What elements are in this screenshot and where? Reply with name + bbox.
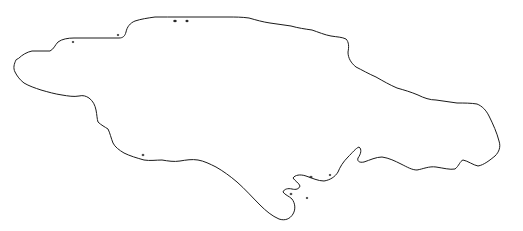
jamaica-outline-map: Jamaica Blank outline map of the island … xyxy=(0,0,523,231)
islet-2 xyxy=(173,20,176,22)
islet-3 xyxy=(186,20,189,22)
islet-8 xyxy=(72,41,74,42)
islet-7 xyxy=(290,193,292,195)
islet-9 xyxy=(117,34,119,35)
map-canvas: Jamaica Blank outline map of the island … xyxy=(0,0,523,231)
islet-4 xyxy=(310,176,313,178)
islet-1 xyxy=(142,154,144,156)
islet-6 xyxy=(306,197,308,198)
islet-5 xyxy=(329,174,331,175)
